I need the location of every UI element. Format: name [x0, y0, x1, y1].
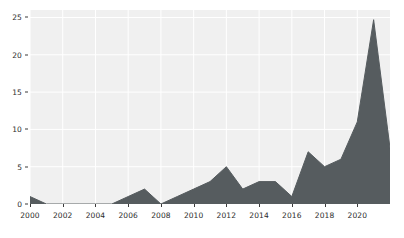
- x-tick-mark: [30, 204, 31, 207]
- y-tick-label: 10: [12, 125, 22, 134]
- area-fill: [30, 20, 390, 204]
- y-tick-label: 25: [12, 13, 22, 22]
- x-tick-label: 2000: [20, 211, 40, 220]
- area-chart-figure: 0510152025 20002002200420062008201020122…: [0, 0, 404, 238]
- y-tick-label: 5: [17, 162, 22, 171]
- y-tick-label: 0: [17, 200, 22, 209]
- x-tick-mark: [161, 204, 162, 207]
- x-tick-mark: [325, 204, 326, 207]
- area-series: [30, 10, 390, 204]
- x-tick-label: 2004: [86, 211, 106, 220]
- x-tick-label: 2014: [249, 211, 269, 220]
- y-tick-mark: [25, 129, 28, 130]
- y-axis-ticks: 0510152025: [0, 10, 22, 204]
- x-axis-ticks: 2000200220042006200820102012201420162018…: [30, 204, 390, 234]
- x-tick-label: 2010: [184, 211, 204, 220]
- x-tick-mark: [226, 204, 227, 207]
- x-tick-label: 2002: [53, 211, 73, 220]
- chart-screenshot: 0510152025 20002002200420062008201020122…: [0, 0, 404, 238]
- x-tick-mark: [63, 204, 64, 207]
- x-tick-mark: [259, 204, 260, 207]
- x-tick-label: 2018: [315, 211, 335, 220]
- x-tick-label: 2008: [151, 211, 171, 220]
- x-tick-label: 2012: [217, 211, 237, 220]
- y-tick-label: 15: [12, 88, 22, 97]
- y-tick-mark: [25, 54, 28, 55]
- y-tick-mark: [25, 204, 28, 205]
- y-tick-mark: [25, 166, 28, 167]
- x-tick-label: 2020: [348, 211, 368, 220]
- y-tick-label: 20: [12, 50, 22, 59]
- x-tick-label: 2006: [118, 211, 138, 220]
- x-tick-label: 2016: [282, 211, 302, 220]
- plot-area: [30, 10, 390, 204]
- y-tick-mark: [25, 92, 28, 93]
- x-tick-mark: [128, 204, 129, 207]
- x-tick-mark: [357, 204, 358, 207]
- x-tick-mark: [292, 204, 293, 207]
- x-tick-mark: [194, 204, 195, 207]
- y-tick-mark: [25, 17, 28, 18]
- x-tick-mark: [95, 204, 96, 207]
